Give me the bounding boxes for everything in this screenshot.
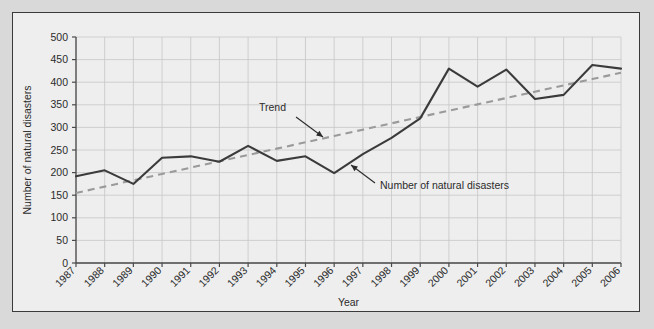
x-tick-label: 1995 [282, 264, 307, 289]
y-tick-label: 500 [50, 31, 68, 43]
annotation-arrowhead [351, 165, 358, 171]
line-chart: 050100150200250300350400450500 198719881… [13, 13, 641, 313]
x-tick-label: 2001 [454, 264, 479, 289]
x-tick-label: 1987 [52, 264, 77, 289]
chart-figure: 050100150200250300350400450500 198719881… [12, 12, 640, 312]
y-tick-label: 450 [50, 53, 68, 65]
grid-lines [76, 37, 621, 263]
x-tick-label: 1999 [397, 264, 422, 289]
x-tick-labels: 1987198819891990199119921993199419951996… [52, 264, 622, 289]
y-tick-labels: 050100150200250300350400450500 [50, 31, 68, 269]
axis-ticks [72, 37, 621, 267]
y-tick-label: 150 [50, 189, 68, 201]
annotations: TrendNumber of natural disasters [259, 101, 509, 191]
x-tick-label: 2002 [483, 264, 508, 289]
y-tick-label: 50 [56, 234, 68, 246]
x-tick-label: 1993 [225, 264, 250, 289]
x-tick-label: 1996 [311, 264, 336, 289]
annotation-arrowhead [316, 131, 323, 137]
annotation-label-trend: Trend [259, 101, 286, 113]
x-tick-label: 1992 [196, 264, 221, 289]
x-tick-label: 2004 [540, 264, 565, 289]
disasters-line-series [76, 65, 621, 184]
annotation-label-disasters: Number of natural disasters [380, 179, 509, 191]
x-tick-label: 2005 [569, 264, 594, 289]
x-tick-label: 1988 [81, 264, 106, 289]
trend-line-series [76, 73, 621, 193]
x-tick-label: 2006 [597, 264, 622, 289]
x-axis-title: Year [338, 296, 360, 308]
y-tick-label: 100 [50, 211, 68, 223]
y-tick-label: 400 [50, 76, 68, 88]
x-tick-label: 1990 [138, 264, 163, 289]
y-axis-title: Number of natural disasters [21, 86, 33, 215]
x-tick-label: 1989 [110, 264, 135, 289]
x-tick-label: 1997 [339, 264, 364, 289]
x-tick-label: 1991 [167, 264, 192, 289]
y-tick-label: 300 [50, 121, 68, 133]
x-tick-label: 1994 [253, 264, 278, 289]
y-tick-label: 350 [50, 98, 68, 110]
x-tick-label: 2000 [425, 264, 450, 289]
x-tick-label: 1998 [368, 264, 393, 289]
y-tick-label: 200 [50, 166, 68, 178]
y-tick-label: 250 [50, 144, 68, 156]
x-tick-label: 2003 [511, 264, 536, 289]
